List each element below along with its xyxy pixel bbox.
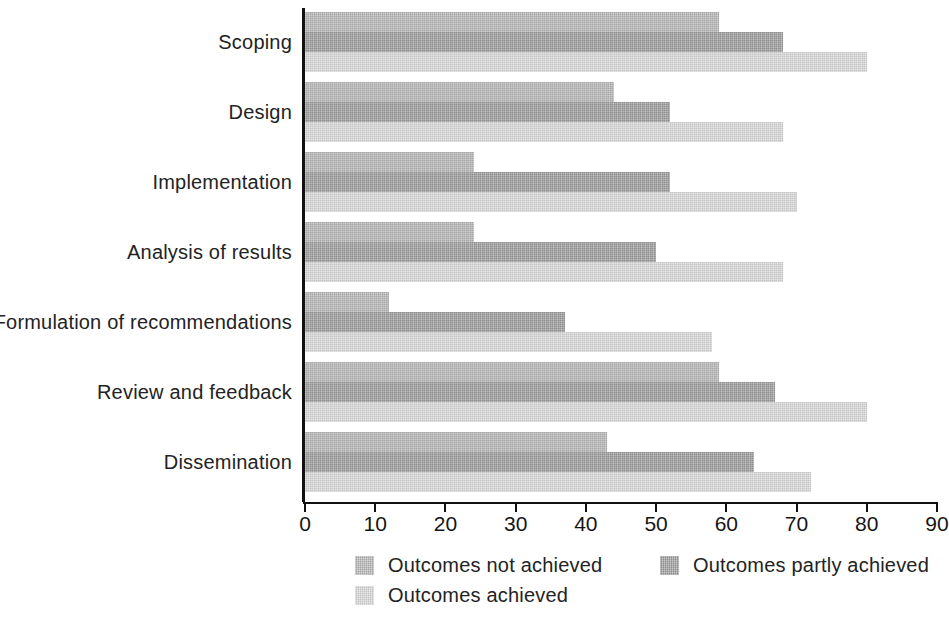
bar-group: Implementation: [0, 152, 947, 212]
x-tick-label: 20: [434, 512, 457, 536]
bar: [305, 122, 783, 142]
x-tick: [796, 502, 798, 512]
legend-item: Outcomes not achieved: [355, 554, 602, 577]
bar: [305, 172, 670, 192]
x-tick-label: 50: [644, 512, 667, 536]
bar: [305, 242, 656, 262]
bar: [305, 472, 811, 492]
x-tick-label: 30: [504, 512, 527, 536]
plot-area: ScopingDesignImplementationAnalysis of r…: [0, 0, 947, 540]
x-axis-line: [303, 502, 937, 504]
bar-group: Review and feedback: [0, 362, 947, 422]
x-tick-label: 90: [925, 512, 948, 536]
bar: [305, 152, 474, 172]
chart-legend: Outcomes not achievedOutcomes partly ach…: [0, 552, 947, 620]
x-tick: [374, 502, 376, 512]
x-tick: [655, 502, 657, 512]
bar: [305, 222, 474, 242]
x-tick-label: 60: [715, 512, 738, 536]
x-tick: [725, 502, 727, 512]
bar-group: Dissemination: [0, 432, 947, 492]
category-label: Scoping: [218, 31, 292, 54]
bar: [305, 452, 754, 472]
bar: [305, 12, 719, 32]
legend-label: Outcomes not achieved: [388, 554, 602, 577]
bar: [305, 382, 775, 402]
legend-label: Outcomes partly achieved: [693, 554, 929, 577]
bar-group: Scoping: [0, 12, 947, 72]
bar-group: Design: [0, 82, 947, 142]
category-label: Dissemination: [164, 451, 292, 474]
legend-swatch-icon: [660, 556, 679, 575]
bar: [305, 312, 565, 332]
legend-swatch-icon: [355, 556, 374, 575]
bar: [305, 82, 614, 102]
bar: [305, 332, 712, 352]
category-label: Analysis of results: [127, 241, 292, 264]
bar: [305, 52, 867, 72]
bar: [305, 262, 783, 282]
category-label: Design: [229, 101, 292, 124]
category-label: Formulation of recommendations: [0, 311, 292, 334]
bar: [305, 432, 607, 452]
bar: [305, 402, 867, 422]
x-tick-label: 0: [299, 512, 311, 536]
x-tick-label: 40: [574, 512, 597, 536]
bar: [305, 102, 670, 122]
bar-group: Analysis of results: [0, 222, 947, 282]
legend-label: Outcomes achieved: [388, 584, 568, 607]
category-label: Implementation: [152, 171, 292, 194]
bar: [305, 192, 797, 212]
bar: [305, 362, 719, 382]
bar: [305, 292, 389, 312]
x-tick: [444, 502, 446, 512]
x-tick: [304, 502, 306, 512]
bar-group: Formulation of recommendations: [0, 292, 947, 352]
x-tick: [866, 502, 868, 512]
legend-swatch-icon: [355, 586, 374, 605]
x-tick-label: 80: [855, 512, 878, 536]
x-tick-label: 10: [364, 512, 387, 536]
x-tick-label: 70: [785, 512, 808, 536]
legend-item: Outcomes achieved: [355, 584, 568, 607]
x-tick: [515, 502, 517, 512]
legend-item: Outcomes partly achieved: [660, 554, 929, 577]
category-label: Review and feedback: [97, 381, 292, 404]
x-tick: [936, 502, 938, 512]
x-tick: [585, 502, 587, 512]
bar: [305, 32, 783, 52]
